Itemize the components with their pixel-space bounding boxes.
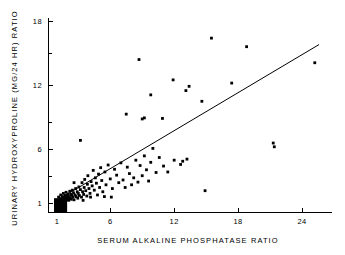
data-point	[273, 145, 276, 148]
data-point	[173, 159, 176, 162]
data-point	[109, 178, 112, 181]
data-point	[162, 165, 165, 168]
data-point	[184, 89, 187, 92]
data-point	[141, 118, 144, 121]
data-point	[86, 174, 89, 177]
data-point	[73, 198, 76, 201]
data-point	[88, 187, 91, 190]
data-point	[95, 182, 98, 185]
x-tick-label: 1	[55, 217, 60, 226]
data-point	[137, 181, 140, 184]
data-point	[204, 189, 207, 192]
x-tick-label: 24	[297, 217, 306, 226]
data-point	[100, 179, 103, 182]
data-point	[99, 166, 102, 169]
regression-line	[57, 45, 319, 201]
data-point	[188, 85, 191, 88]
data-point	[82, 199, 85, 202]
data-point	[113, 168, 116, 171]
data-point	[125, 113, 128, 116]
data-point	[103, 195, 106, 198]
y-axis-title: URINARY HYDROXYPROLINE (MG/24 HR) RATIO	[10, 10, 19, 225]
data-point	[92, 169, 95, 172]
plot-canvas: 16121824161218 SERUM ALKALINE PHOSPHATAS…	[0, 0, 345, 255]
origin-cluster-block	[54, 198, 67, 212]
data-point	[115, 174, 118, 177]
data-point	[158, 156, 161, 159]
data-point	[111, 187, 114, 190]
y-tick-label: 6	[37, 145, 42, 154]
x-tick-label: 18	[234, 217, 243, 226]
data-point	[179, 163, 182, 166]
data-point	[101, 190, 104, 193]
data-point	[143, 154, 146, 157]
y-tick-label: 12	[33, 81, 42, 90]
data-point	[122, 179, 125, 182]
data-point	[83, 186, 86, 189]
data-point	[98, 186, 101, 189]
data-point	[230, 82, 233, 85]
regression-line	[57, 45, 319, 201]
data-point	[80, 196, 83, 199]
data-point	[151, 147, 154, 150]
data-point	[89, 192, 92, 195]
data-point	[128, 172, 131, 175]
data-point	[186, 158, 189, 161]
data-point	[172, 78, 175, 81]
data-point	[166, 171, 169, 174]
data-point	[110, 196, 113, 199]
data-point	[132, 176, 135, 179]
data-point	[84, 189, 87, 192]
data-point	[82, 193, 85, 196]
data-point	[200, 100, 203, 103]
data-point	[91, 184, 94, 187]
data-point	[141, 174, 144, 177]
data-point	[161, 117, 164, 120]
x-tick-label: 6	[108, 217, 113, 226]
data-point	[313, 61, 316, 64]
data-point	[245, 45, 248, 48]
data-point	[85, 195, 88, 198]
data-point	[147, 180, 150, 183]
origin-cluster-block	[54, 198, 67, 212]
x-tick-label: 12	[170, 217, 179, 226]
data-point	[149, 93, 152, 96]
data-point	[79, 139, 82, 142]
data-point	[81, 181, 84, 184]
data-point	[134, 159, 137, 162]
data-point	[105, 183, 108, 186]
data-point	[89, 196, 92, 199]
y-tick-label: 1	[37, 199, 42, 208]
data-point	[76, 197, 79, 200]
data-point	[139, 164, 142, 167]
data-point	[210, 37, 213, 40]
data-point	[272, 142, 275, 145]
data-point	[73, 181, 76, 184]
data-point	[117, 181, 120, 184]
data-point	[93, 189, 96, 192]
data-point	[126, 166, 129, 169]
y-tick-label: 18	[33, 17, 42, 26]
data-point	[130, 183, 133, 186]
data-point	[181, 160, 184, 163]
data-point	[124, 186, 127, 189]
data-point	[107, 164, 110, 167]
data-points	[57, 37, 316, 203]
x-axis-title: SERUM ALKALINE PHOSPHATASE RATIO	[97, 236, 279, 245]
data-point	[96, 194, 99, 197]
data-point	[145, 168, 148, 171]
data-point	[83, 178, 86, 181]
data-point	[138, 58, 141, 61]
data-point	[149, 161, 152, 164]
data-point	[155, 171, 158, 174]
data-point	[81, 190, 84, 193]
scatter-plot-figure: 16121824161218 SERUM ALKALINE PHOSPHATAS…	[0, 0, 345, 255]
